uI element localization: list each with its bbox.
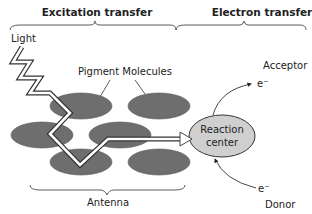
- light-label: Light: [11, 33, 36, 44]
- photosynthesis-diagram: Excitation transfer Electron transfer Li…: [0, 0, 312, 214]
- reaction-center-label-line1: Reaction: [200, 124, 243, 135]
- reaction-center-label-line2: center: [206, 137, 239, 148]
- pigment-pointer-line-2: [135, 80, 145, 94]
- reaction-center: [189, 115, 255, 157]
- pigment-ellipse: [11, 122, 73, 148]
- electron-arrow-from-donor: [215, 159, 256, 188]
- donor-label: Donor: [265, 199, 296, 210]
- pigment-ellipse: [50, 93, 112, 119]
- acceptor-label: Acceptor: [263, 60, 308, 71]
- pigment-ellipse: [128, 93, 190, 119]
- pigment-molecules-label: Pigment Molecules: [78, 66, 172, 77]
- pigment-molecules: [11, 93, 190, 175]
- excitation-transfer-header: Excitation transfer: [42, 6, 154, 18]
- electron-arrow-to-acceptor: [213, 84, 251, 115]
- electron-top-label: e⁻: [257, 78, 268, 89]
- electron-brace: [176, 21, 306, 30]
- electron-bottom-label: e⁻: [258, 183, 269, 194]
- pigment-ellipse: [128, 149, 190, 175]
- pigment-ellipse: [89, 122, 151, 148]
- antenna-brace: [30, 185, 185, 195]
- excitation-brace: [10, 21, 176, 30]
- pigment-pointer-line-1: [100, 80, 110, 97]
- antenna-label: Antenna: [87, 197, 129, 208]
- electron-transfer-header: Electron transfer: [212, 6, 312, 18]
